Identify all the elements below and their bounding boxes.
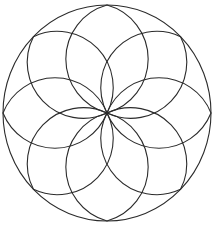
petal-group (3, 5, 211, 221)
petal-3 (66, 5, 148, 113)
petal-4 (27, 31, 113, 118)
petal-8 (101, 108, 187, 195)
petal-7 (66, 113, 148, 221)
rosette-diagram (0, 0, 217, 232)
petal-2 (101, 31, 187, 118)
petal-1 (107, 78, 211, 148)
petal-5 (3, 78, 107, 148)
petal-6 (27, 108, 113, 195)
